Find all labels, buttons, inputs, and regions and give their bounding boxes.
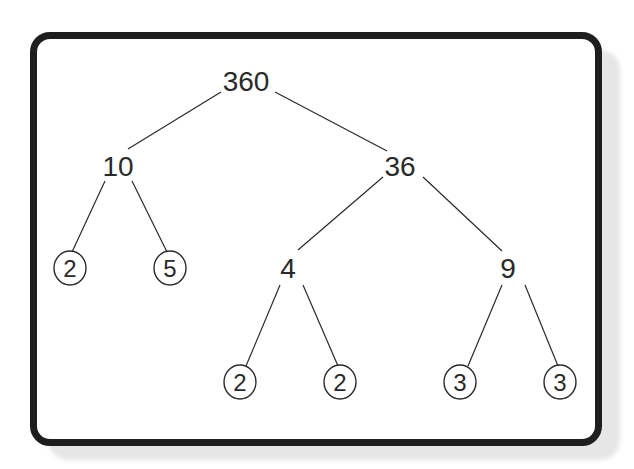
prime-circles — [54, 251, 576, 399]
edge-10-2 — [72, 181, 105, 252]
edge-4-2 — [246, 285, 280, 366]
node-2-prime: 2 — [63, 255, 76, 282]
factor-tree: 360 10 36 2 5 4 9 2 2 3 3 — [0, 0, 634, 469]
edge-360-36 — [275, 92, 387, 151]
node-2b-prime: 2 — [233, 369, 246, 396]
edge-10-5 — [132, 181, 167, 252]
edge-360-10 — [128, 92, 221, 149]
edge-9-3 — [468, 285, 502, 366]
tree-edges — [72, 92, 558, 366]
node-9: 9 — [500, 253, 516, 284]
edge-4-2b — [303, 285, 338, 366]
node-4: 4 — [280, 253, 296, 284]
node-10: 10 — [102, 151, 133, 182]
node-5-prime: 5 — [163, 255, 176, 282]
node-2c-prime: 2 — [333, 369, 346, 396]
node-3b-prime: 3 — [553, 369, 566, 396]
node-3a-prime: 3 — [453, 369, 466, 396]
node-36: 36 — [384, 151, 415, 182]
node-360: 360 — [223, 66, 270, 97]
edge-36-4 — [298, 177, 383, 250]
edge-9-3b — [525, 285, 558, 366]
node-labels: 360 10 36 2 5 4 9 2 2 3 3 — [63, 66, 566, 396]
edge-36-9 — [423, 177, 502, 251]
